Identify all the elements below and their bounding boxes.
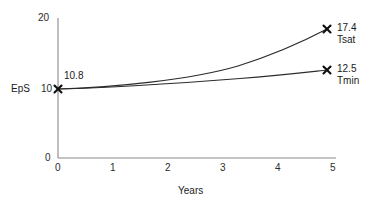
y-axis-tick-20: 20 <box>38 12 49 23</box>
y-axis-tick-10: 10 <box>41 83 52 94</box>
y-axis-title: EpS <box>11 83 30 94</box>
x-axis-tick-1: 1 <box>110 162 116 173</box>
annotation-tsat-value: 17.4 <box>337 22 356 33</box>
y-axis-tick-0: 0 <box>45 152 51 163</box>
annotation-start-value: 10.8 <box>64 70 83 81</box>
x-axis-tick-5: 5 <box>330 162 336 173</box>
x-axis-tick-0: 0 <box>55 162 61 173</box>
chart-container: 20 10 0 EpS 0 1 2 3 4 5 Years 10.8 17.4 … <box>0 0 371 211</box>
chart-plot-area <box>0 0 371 211</box>
annotation-tsat-name: Tsat <box>337 34 355 45</box>
x-axis-tick-4: 4 <box>275 162 281 173</box>
annotation-tmin-value: 12.5 <box>337 63 356 74</box>
x-axis-tick-3: 3 <box>220 162 226 173</box>
marker-x-tsat <box>324 26 331 33</box>
x-axis-title: Years <box>178 185 203 196</box>
x-axis-tick-2: 2 <box>165 162 171 173</box>
series-line-tsat <box>58 29 327 89</box>
annotation-tmin-name: Tmin <box>337 75 359 86</box>
series-line-tmin <box>58 70 327 89</box>
